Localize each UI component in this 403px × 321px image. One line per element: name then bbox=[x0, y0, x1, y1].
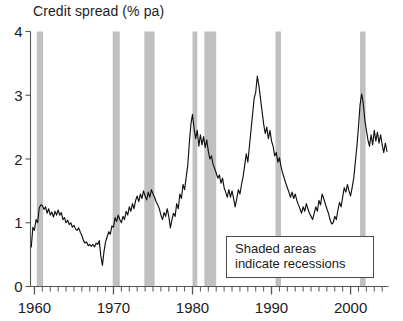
y-tick-label: 0 bbox=[14, 278, 22, 295]
recession-band-0 bbox=[37, 32, 43, 287]
x-tick-label: 1990 bbox=[255, 299, 288, 316]
x-tick-label: 1970 bbox=[97, 299, 130, 316]
x-tick-label: 1960 bbox=[18, 299, 51, 316]
legend-annotation-box: Shaded areas indicate recessions bbox=[226, 236, 374, 278]
recession-band-1 bbox=[113, 32, 120, 287]
legend-line-2: indicate recessions bbox=[235, 256, 365, 271]
x-tick-label: 1980 bbox=[176, 299, 209, 316]
recession-band-3 bbox=[193, 32, 198, 287]
recession-band-2 bbox=[144, 32, 154, 287]
y-tick-label: 3 bbox=[14, 87, 22, 104]
y-tick-label: 2 bbox=[14, 151, 22, 168]
legend-line-1: Shaded areas bbox=[235, 241, 365, 256]
x-tick-label: 2000 bbox=[334, 299, 367, 316]
y-tick-label: 1 bbox=[14, 214, 22, 231]
credit-spread-chart: Credit spread (% pa) 0123419601970198019… bbox=[0, 0, 403, 321]
y-tick-label: 4 bbox=[14, 23, 22, 40]
